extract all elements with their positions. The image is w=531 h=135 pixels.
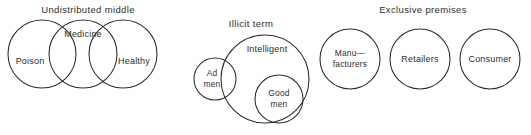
label-healthy: Healthy: [118, 56, 150, 66]
label-ad-men-line2: men: [204, 79, 221, 89]
logic-fallacy-figure: Undistributed middle Poison Medicine Hea…: [0, 0, 531, 135]
label-intelligent: Intelligent: [247, 44, 288, 54]
label-good-men-line1: Good: [268, 88, 289, 98]
label-manufacturers-line2: facturers: [333, 59, 367, 69]
label-ad-men-line1: Ad: [207, 68, 218, 78]
label-good-men-line2: men: [271, 99, 288, 109]
label-medicine: Medicine: [64, 29, 102, 39]
diagram-undistributed-middle: Undistributed middle Poison Medicine Hea…: [8, 4, 157, 88]
label-poison: Poison: [16, 56, 45, 66]
diagram-illicit-term: Illicit term Intelligent Ad men Good men: [194, 18, 309, 123]
label-consumer: Consumer: [468, 54, 511, 64]
venn-diagram-canvas: Undistributed middle Poison Medicine Hea…: [0, 0, 531, 135]
diagram-title-exclusive-premises: Exclusive premises: [379, 4, 467, 15]
diagram-title-illicit-term: Illicit term: [229, 18, 273, 29]
label-manufacturers-line1: Manu—: [335, 48, 366, 58]
diagram-exclusive-premises: Exclusive premises Manu— facturers Retai…: [320, 4, 520, 89]
label-retailers: Retailers: [401, 54, 439, 64]
diagram-title-undistributed-middle: Undistributed middle: [41, 4, 135, 15]
